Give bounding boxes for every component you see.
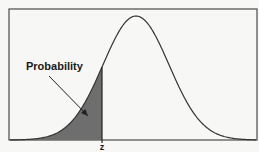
normal-distribution-diagram: Probability z	[0, 0, 259, 152]
normal-curve	[10, 16, 256, 140]
plot-frame	[9, 9, 257, 140]
z-label: z	[100, 142, 105, 152]
shaded-probability-area	[10, 67, 102, 140]
probability-label: Probability	[26, 60, 84, 72]
annotation-arrow	[49, 76, 88, 116]
